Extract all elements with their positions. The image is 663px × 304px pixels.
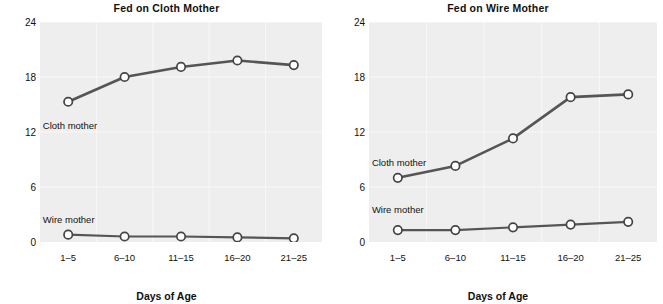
- x-axis-tick-1: 1–5: [60, 252, 76, 263]
- data-point-marker: [120, 232, 128, 240]
- y-axis-tick-0: 0: [343, 237, 365, 248]
- data-point-marker: [177, 232, 185, 240]
- panel-fed-on-wire-mother: Fed on Wire Mother Mean Hours per Day 06…: [333, 0, 663, 304]
- y-axis-tick-6: 6: [14, 182, 36, 193]
- data-point-marker: [177, 63, 185, 71]
- chart-canvas: [40, 22, 322, 242]
- data-point-marker: [290, 61, 298, 69]
- data-point-marker: [394, 226, 402, 234]
- x-axis-tick-2: 6–10: [114, 252, 135, 263]
- x-axis-tick-2: 6–10: [445, 252, 466, 263]
- series-annotation-wire-mother: Wire mother: [372, 204, 424, 215]
- data-point-marker: [624, 218, 632, 226]
- y-axis-tick-18: 18: [343, 72, 365, 83]
- data-point-marker: [566, 93, 574, 101]
- data-point-marker: [233, 56, 241, 64]
- series-annotation-cloth-mother: Cloth mother: [372, 157, 426, 168]
- x-axis-tick-4: 16–20: [224, 252, 250, 263]
- y-axis-tick-24: 24: [343, 17, 365, 28]
- x-axis-tick-5: 21–25: [281, 252, 307, 263]
- series-annotation-cloth-mother: Cloth mother: [43, 120, 97, 131]
- figure-two-panel-line-charts: Fed on Cloth Mother Mean Hours per Day 0…: [0, 0, 663, 304]
- y-axis-tick-labels: 06121824: [341, 0, 365, 304]
- panel-title: Fed on Cloth Mother: [0, 2, 333, 14]
- y-axis-tick-0: 0: [14, 237, 36, 248]
- x-axis-tick-4: 16–20: [557, 252, 583, 263]
- y-axis-tick-6: 6: [343, 182, 365, 193]
- y-axis-tick-18: 18: [14, 72, 36, 83]
- data-point-marker: [233, 233, 241, 241]
- series-annotation-wire-mother: Wire mother: [43, 214, 95, 225]
- data-point-marker: [509, 134, 517, 142]
- y-axis-tick-24: 24: [14, 17, 36, 28]
- x-axis-label: Days of Age: [0, 290, 333, 302]
- data-point-marker: [290, 234, 298, 242]
- data-point-marker: [394, 174, 402, 182]
- x-axis-tick-3: 11–15: [168, 252, 194, 263]
- y-axis-tick-labels: 06121824: [12, 0, 36, 304]
- plot-area: [40, 22, 322, 242]
- panel-fed-on-cloth-mother: Fed on Cloth Mother Mean Hours per Day 0…: [0, 0, 333, 304]
- data-point-marker: [64, 98, 72, 106]
- x-axis-tick-3: 11–15: [500, 252, 526, 263]
- data-point-marker: [509, 223, 517, 231]
- data-point-marker: [120, 73, 128, 81]
- y-axis-tick-12: 12: [14, 127, 36, 138]
- data-point-marker: [624, 90, 632, 98]
- data-point-marker: [64, 230, 72, 238]
- x-axis-tick-5: 21–25: [615, 252, 641, 263]
- y-axis-tick-12: 12: [343, 127, 365, 138]
- data-point-marker: [451, 226, 459, 234]
- x-axis-label: Days of Age: [333, 290, 663, 302]
- x-axis-tick-1: 1–5: [390, 252, 406, 263]
- data-point-marker: [451, 162, 459, 170]
- panel-title: Fed on Wire Mother: [333, 2, 663, 14]
- data-point-marker: [566, 220, 574, 228]
